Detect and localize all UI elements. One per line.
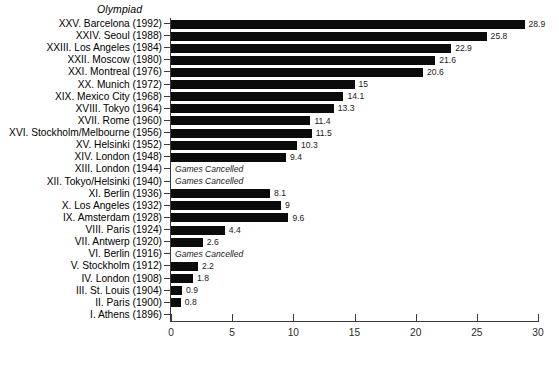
y-axis-tick: [164, 120, 170, 121]
category-label: XVI. Stockholm/Melbourne (1956): [0, 127, 162, 139]
table-row: XXIII. Los Angeles (1984)22.9: [0, 42, 559, 54]
y-axis-tick: [164, 156, 170, 157]
bar-value-label: 14.1: [347, 91, 364, 102]
category-label: XI. Berlin (1936): [0, 188, 162, 200]
bar: [171, 129, 312, 138]
bar: [171, 213, 288, 222]
y-axis-tick: [164, 47, 170, 48]
bar-value-label: 8.1: [274, 188, 286, 199]
chart-title: Olympiad: [97, 3, 142, 15]
category-label: I. Athens (1896): [0, 309, 162, 321]
bar: [171, 20, 525, 29]
y-axis-tick: [164, 71, 170, 72]
x-axis-tick-label: 25: [457, 327, 497, 338]
x-axis-tick-label: 0: [151, 327, 191, 338]
y-axis-tick: [164, 241, 170, 242]
y-axis-tick: [164, 302, 170, 303]
y-axis-tick: [164, 265, 170, 266]
x-axis-tick-label: 5: [212, 327, 252, 338]
category-label: XV. Helsinki (1952): [0, 139, 162, 151]
table-row: IX. Amsterdam (1928)9.6: [0, 212, 559, 224]
y-axis-tick: [164, 278, 170, 279]
category-label: XIV. London (1948): [0, 151, 162, 163]
table-row: IV. London (1908)1.8: [0, 273, 559, 285]
bar: [171, 68, 423, 77]
bar-value-label: 1.8: [197, 273, 209, 284]
category-label: II. Paris (1900): [0, 297, 162, 309]
table-row: I. Athens (1896): [0, 309, 559, 321]
table-row: XIV. London (1948)9.4: [0, 151, 559, 163]
bar-value-label: 25.8: [491, 31, 508, 42]
y-axis-tick: [164, 193, 170, 194]
bar-value-label: 13.3: [338, 103, 355, 114]
x-axis-tick-label: 30: [518, 327, 558, 338]
category-label: XX. Munich (1972): [0, 79, 162, 91]
table-row: XV. Helsinki (1952)10.3: [0, 139, 559, 151]
bar-value-label: 22.9: [455, 43, 472, 54]
bar-value-label: 11.5: [316, 128, 332, 139]
bar-value-label: 9.4: [290, 152, 302, 163]
category-label: IX. Amsterdam (1928): [0, 212, 162, 224]
y-axis-tick: [164, 181, 170, 182]
category-label: XII. Tokyo/Helsinki (1940): [0, 176, 162, 188]
table-row: X. Los Angeles (1932)9: [0, 200, 559, 212]
table-row: XXI. Montreal (1976)20.6: [0, 66, 559, 78]
bar-value-label: 0.9: [186, 285, 198, 296]
bar-value-label: 11.4: [314, 116, 330, 127]
category-label: VI. Berlin (1916): [0, 248, 162, 260]
y-axis-tick: [164, 229, 170, 230]
bar: [171, 116, 310, 125]
category-label: XVII. Rome (1960): [0, 115, 162, 127]
bar-value-label: 2.6: [207, 237, 219, 248]
table-row: XVI. Stockholm/Melbourne (1956)11.5: [0, 127, 559, 139]
y-axis-tick: [164, 84, 170, 85]
x-axis-line: [170, 321, 539, 322]
games-cancelled-note: Games Cancelled: [175, 164, 243, 175]
bar: [171, 141, 297, 150]
table-row: VI. Berlin (1916)Games Cancelled: [0, 248, 559, 260]
table-row: V. Stockholm (1912)2.2: [0, 260, 559, 272]
bar: [171, 44, 451, 53]
table-row: XXIV. Seoul (1988)25.8: [0, 30, 559, 42]
table-row: II. Paris (1900)0.8: [0, 297, 559, 309]
y-axis-tick: [164, 205, 170, 206]
table-row: XX. Munich (1972)15: [0, 79, 559, 91]
category-label: III. St. Louis (1904): [0, 285, 162, 297]
bar: [171, 238, 203, 247]
category-label: VIII. Paris (1924): [0, 224, 162, 236]
category-label: XXV. Barcelona (1992): [0, 18, 162, 30]
x-axis-tick-label: 15: [335, 327, 375, 338]
bar-value-label: 21.6: [439, 55, 456, 66]
bar: [171, 189, 270, 198]
category-label: VII. Antwerp (1920): [0, 236, 162, 248]
bar: [171, 286, 182, 295]
bar: [171, 32, 487, 41]
bar: [171, 80, 355, 89]
category-label: XXII. Moscow (1980): [0, 54, 162, 66]
category-label: X. Los Angeles (1932): [0, 200, 162, 212]
category-label: XXIV. Seoul (1988): [0, 30, 162, 42]
bar-value-label: 15: [359, 79, 369, 90]
category-label: XIX. Mexico City (1968): [0, 91, 162, 103]
olympiad-bar-chart: Olympiad XXV. Barcelona (1992)28.9XXIV. …: [0, 0, 559, 365]
category-label: XXIII. Los Angeles (1984): [0, 42, 162, 54]
x-axis-tick-label: 20: [396, 327, 436, 338]
y-axis-tick: [164, 168, 170, 169]
y-axis-tick: [164, 35, 170, 36]
category-label: XIII. London (1944): [0, 163, 162, 175]
bar-value-label: 9: [285, 200, 290, 211]
y-axis-tick: [164, 96, 170, 97]
bar-value-label: 28.9: [529, 19, 546, 30]
y-axis-tick: [164, 217, 170, 218]
bar-value-label: 4.4: [229, 225, 241, 236]
bar: [171, 201, 281, 210]
y-axis-tick: [164, 108, 170, 109]
bar-rows: XXV. Barcelona (1992)28.9XXIV. Seoul (19…: [0, 18, 559, 321]
bar: [171, 56, 435, 65]
y-axis-tick: [164, 253, 170, 254]
games-cancelled-note: Games Cancelled: [175, 176, 243, 187]
y-axis-tick: [164, 23, 170, 24]
bar: [171, 262, 198, 271]
table-row: XVII. Rome (1960)11.4: [0, 115, 559, 127]
table-row: VIII. Paris (1924)4.4: [0, 224, 559, 236]
